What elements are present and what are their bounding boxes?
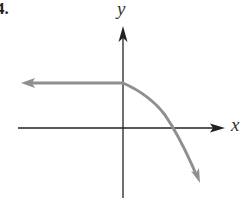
x-axis — [18, 124, 225, 133]
function-curve — [21, 78, 200, 183]
graph-svg — [0, 0, 242, 204]
graph-figure: 4. y x — [0, 0, 242, 204]
y-axis — [119, 26, 128, 198]
